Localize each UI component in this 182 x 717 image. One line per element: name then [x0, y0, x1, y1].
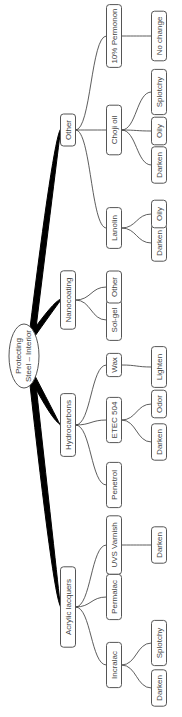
node-l1-other[interactable]: Other	[61, 114, 76, 146]
node-label: Lighten	[155, 354, 164, 380]
edge-incralac-splotchy	[122, 643, 152, 665]
edge-nanocoating-sol-gel	[76, 300, 107, 320]
node-label: Hydrocarbons	[64, 400, 73, 450]
root-label-line2: Steel – Interior	[24, 330, 33, 382]
node-label: ETEC 504	[110, 401, 119, 438]
node-l2-sol-gel[interactable]: Sol-gel	[107, 300, 122, 341]
edge-hydrocarbons-penetrol	[76, 425, 107, 485]
edge-lanolin-oily	[122, 214, 152, 228]
node-label: Darken	[155, 230, 164, 256]
node-label: Sol-gel	[110, 307, 119, 332]
node-l3-etec-504-odor[interactable]: Odor	[152, 390, 167, 418]
node-label: Darken	[155, 675, 164, 701]
node-l3-uvs-varnish-darken[interactable]: Darken	[152, 527, 167, 563]
edge-acrylic-lacquers-permalac	[76, 597, 107, 607]
root-label-line1: Protecting	[14, 338, 23, 374]
node-l3-choji-oil-darken[interactable]: Darken	[152, 147, 167, 183]
node-label: Oily	[155, 207, 164, 221]
root-node[interactable]: Protecting Steel – Interior	[9, 324, 39, 388]
edge-other-lanolin	[76, 130, 107, 228]
edge-lanolin-darken	[122, 228, 152, 243]
node-l3-choji-oil-splotchy[interactable]: Splotchy	[152, 69, 167, 114]
node-label: Other	[64, 120, 73, 140]
node-l2-lanolin[interactable]: Lanolin	[107, 208, 122, 249]
edges	[29, 36, 152, 688]
edge-hydrocarbons-wax	[76, 365, 107, 425]
edge-wax-lighten	[122, 365, 152, 367]
trunk-edge-acrylic-lacquers	[29, 376, 61, 608]
mind-map-diagram: Protecting Steel – Interior Acrylic lacq…	[0, 0, 182, 717]
node-label: Splotchy	[155, 77, 164, 108]
node-l2-10-permonon[interactable]: 10% Permonon	[107, 5, 122, 68]
node-label: Nanocoating	[64, 278, 73, 323]
node-l2-penetrol[interactable]: Penetrol	[107, 462, 122, 507]
node-label: Oily	[155, 124, 164, 138]
node-label: 10% Permonon	[110, 8, 119, 63]
node-l1-hydrocarbons[interactable]: Hydrocarbons	[61, 394, 76, 457]
node-label: Choji oil	[110, 116, 119, 145]
node-l2-uvs-varnish[interactable]: UVS Varnish	[107, 516, 122, 574]
edge-nanocoating-other	[76, 287, 107, 300]
node-l3-lanolin-oily[interactable]: Oily	[152, 200, 167, 228]
node-l3-10-permonon-no-change[interactable]: No change	[152, 11, 167, 61]
node-label: Darken	[155, 532, 164, 558]
edge-etec-504-darken	[122, 420, 152, 442]
node-l2-etec-504[interactable]: ETEC 504	[107, 397, 122, 442]
edge-incralac-darken	[122, 665, 152, 688]
node-label: Acrylic lacquers	[64, 579, 73, 635]
node-l2-wax[interactable]: Wax	[107, 353, 122, 376]
node-label: Permalac	[110, 580, 119, 614]
node-l1-nanocoating[interactable]: Nanocoating	[61, 271, 76, 329]
edge-choji-oil-darken	[122, 130, 152, 165]
node-label: Splotchy	[155, 628, 164, 659]
node-l2-other[interactable]: Other	[107, 271, 122, 303]
node-label: Other	[110, 277, 119, 297]
node-l2-permalac[interactable]: Permalac	[107, 574, 122, 619]
node-l3-etec-504-darken[interactable]: Darken	[152, 424, 167, 460]
node-l3-lanolin-darken[interactable]: Darken	[152, 225, 167, 261]
node-label: UVS Varnish	[110, 522, 119, 567]
node-l3-choji-oil-oily[interactable]: Oily	[152, 117, 167, 145]
node-l2-choji-oil[interactable]: Choji oil	[107, 105, 122, 155]
edge-acrylic-lacquers-incralac	[76, 607, 107, 665]
nodes: Acrylic lacquersIncralacDarkenSplotchyPe…	[61, 5, 167, 707]
node-l3-incralac-splotchy[interactable]: Splotchy	[152, 620, 167, 665]
node-label: Darken	[155, 152, 164, 178]
node-l2-incralac[interactable]: Incralac	[107, 642, 122, 687]
edge-other-10-permonon	[76, 36, 107, 130]
node-label: No change	[155, 16, 164, 55]
node-label: Incralac	[110, 651, 119, 679]
node-l3-wax-lighten[interactable]: Lighten	[152, 347, 167, 388]
node-label: Penetrol	[110, 470, 119, 500]
node-label: Odor	[155, 395, 164, 413]
node-label: Darken	[155, 429, 164, 455]
node-label: Lanolin	[110, 215, 119, 241]
node-label: Wax	[110, 357, 119, 373]
edge-etec-504-odor	[122, 404, 152, 420]
node-l3-incralac-darken[interactable]: Darken	[152, 670, 167, 706]
node-l1-acrylic-lacquers[interactable]: Acrylic lacquers	[61, 567, 76, 647]
edge-choji-oil-splotchy	[122, 92, 152, 130]
